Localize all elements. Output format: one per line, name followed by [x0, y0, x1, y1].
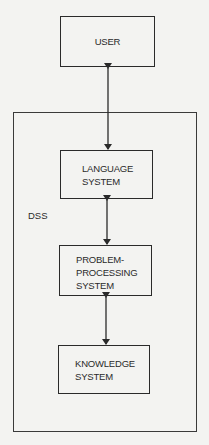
- problem-processing-system-box: PROBLEM- PROCESSING SYSTEM: [59, 245, 152, 296]
- knowledge-system-label: KNOWLEDGE SYSTEM: [75, 357, 135, 383]
- user-label: USER: [61, 35, 154, 48]
- knowledge-system-box: KNOWLEDGE SYSTEM: [58, 345, 150, 394]
- dss-diagram: DSS USER LANGUAGE SYSTEM PROBLEM- PROCES…: [0, 0, 209, 445]
- user-box: USER: [60, 16, 155, 67]
- problem-processing-system-label: PROBLEM- PROCESSING SYSTEM: [76, 253, 137, 292]
- dss-label: DSS: [28, 210, 48, 221]
- language-system-label: LANGUAGE SYSTEM: [82, 162, 133, 188]
- language-system-box: LANGUAGE SYSTEM: [60, 150, 153, 199]
